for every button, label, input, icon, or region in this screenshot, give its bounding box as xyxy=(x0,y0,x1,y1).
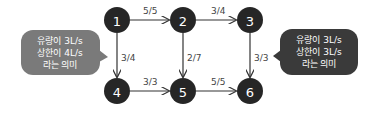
node-1: 1 xyxy=(104,7,130,33)
edge-label-1-2: 5/5 xyxy=(143,6,157,16)
node-4: 4 xyxy=(104,78,130,104)
edge-4-5: 3/3 xyxy=(130,77,169,91)
edge-label-2-3: 3/4 xyxy=(211,6,226,16)
callout-left-line-2: 상한이 4L/s xyxy=(37,48,83,58)
edge-label-5-6: 5/5 xyxy=(211,77,225,87)
node-label-2: 2 xyxy=(179,14,187,29)
node-label-5: 5 xyxy=(179,85,187,100)
edge-label-4-5: 3/3 xyxy=(143,77,157,87)
callout-right-line-3: 라는 의미 xyxy=(302,59,337,69)
edge-2-3: 3/4 xyxy=(196,6,236,20)
node-label-3: 3 xyxy=(246,14,254,29)
node-label-6: 6 xyxy=(246,85,254,100)
callout-right-line-1: 유량이 3L/s xyxy=(296,34,342,45)
node-label-1: 1 xyxy=(113,14,121,29)
flow-network-diagram: 5/5 3/4 3/4 2/7 3/3 3/3 5/5 1 2 3 4 xyxy=(0,0,380,113)
edge-label-2-5: 2/7 xyxy=(187,53,201,63)
callout-left: 유량이 3L/s 상한이 4L/s 라는 의미 xyxy=(21,30,108,75)
node-6: 6 xyxy=(237,78,263,104)
edge-label-3-6: 3/3 xyxy=(254,53,268,63)
callout-right-line-2: 상한이 3L/s xyxy=(296,47,342,57)
node-3: 3 xyxy=(237,7,263,33)
callout-right: 유량이 3L/s 상한이 3L/s 라는 의미 xyxy=(273,29,358,75)
edge-2-5: 2/7 xyxy=(183,33,201,77)
edge-1-4: 3/4 xyxy=(117,33,136,77)
node-2: 2 xyxy=(170,7,196,33)
callout-left-line-1: 유량이 3L/s xyxy=(37,35,83,46)
callout-left-line-3: 라는 의미 xyxy=(43,60,78,70)
node-5: 5 xyxy=(170,78,196,104)
edge-3-6: 3/3 xyxy=(250,33,268,77)
edge-1-2: 5/5 xyxy=(130,6,169,20)
edge-label-1-4: 3/4 xyxy=(121,53,136,63)
node-label-4: 4 xyxy=(113,85,121,100)
edge-5-6: 5/5 xyxy=(196,77,236,91)
